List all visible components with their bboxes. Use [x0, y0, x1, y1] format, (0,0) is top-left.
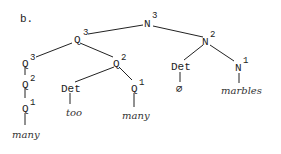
- svg-text:1: 1: [30, 98, 35, 108]
- svg-text:2: 2: [30, 74, 35, 84]
- svg-text:Q: Q: [131, 83, 138, 95]
- node-det-right: Det: [171, 61, 191, 73]
- svg-text:Q: Q: [113, 58, 120, 70]
- word-many-mid: many: [122, 110, 150, 121]
- svg-text:1: 1: [139, 78, 144, 88]
- svg-text:3: 3: [83, 28, 88, 38]
- node-q3-left: Q 3: [22, 53, 35, 70]
- svg-text:N: N: [144, 18, 151, 30]
- edge-q2mid-q1: [119, 67, 132, 80]
- svg-text:3: 3: [30, 53, 35, 63]
- word-empty: ∅: [176, 83, 183, 95]
- node-q2-left: Q 2: [22, 74, 35, 91]
- node-q1-left: Q 1: [22, 98, 35, 115]
- svg-text:Q: Q: [22, 79, 29, 91]
- edge-n2-det: [184, 45, 203, 60]
- svg-text:Q: Q: [22, 58, 29, 70]
- figure-label: b.: [20, 13, 33, 25]
- syntax-tree-diagram: b. N 3 Q 3 N 2 Q 3 Q 2: [0, 0, 281, 154]
- svg-text:1: 1: [243, 56, 248, 66]
- node-n2: N 2: [202, 30, 215, 48]
- edge-root-n2: [153, 26, 203, 37]
- edge-q2mid-det: [75, 67, 114, 82]
- svg-text:3: 3: [152, 11, 157, 21]
- word-many-left: many: [12, 129, 40, 140]
- node-n1: N 1: [235, 56, 248, 74]
- edge-q3-q3left: [36, 43, 72, 57]
- edge-n2-n1: [210, 45, 234, 61]
- svg-text:2: 2: [121, 53, 126, 63]
- svg-text:N: N: [235, 62, 242, 74]
- svg-text:Q: Q: [22, 103, 29, 115]
- node-q1-mid: Q 1: [131, 78, 144, 95]
- edge-root-q3: [88, 25, 143, 34]
- svg-text:Q: Q: [74, 34, 81, 46]
- node-root: N 3: [144, 11, 157, 30]
- word-too: too: [66, 107, 82, 118]
- node-det-mid: Det: [61, 83, 81, 95]
- edge-q3-q2mid: [80, 43, 113, 57]
- svg-text:N: N: [202, 36, 209, 48]
- svg-text:2: 2: [210, 30, 215, 40]
- word-marbles: marbles: [221, 85, 262, 96]
